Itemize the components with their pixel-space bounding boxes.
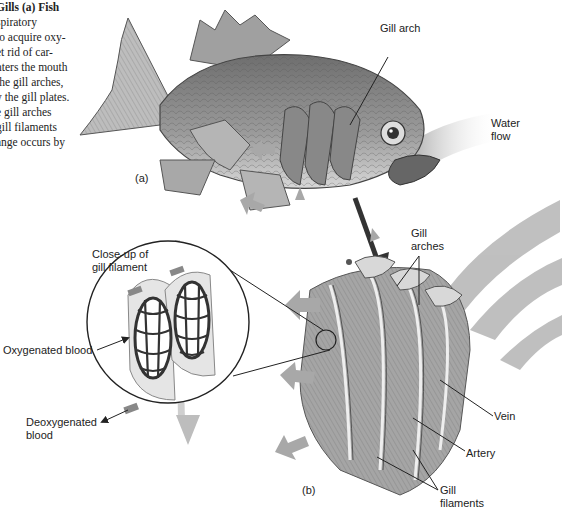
label-gill-arches-line2: arches: [411, 240, 444, 253]
label-deoxygenated-line2: blood: [26, 429, 53, 442]
label-closeup-line2: gill filament: [92, 261, 147, 274]
label-artery: Artery: [466, 447, 495, 460]
label-water-flow-line2: flow: [491, 130, 511, 143]
label-deoxygenated-line1: Deoxygenated: [26, 416, 97, 429]
label-water-flow-line1: Water: [491, 117, 520, 130]
label-panel-a: (a): [135, 172, 148, 185]
fish-illustration: [80, 10, 440, 215]
label-gill-filaments-line1: Gill: [440, 484, 456, 497]
label-closeup-line1: Close-up of: [92, 248, 148, 261]
label-gill-arch: Gill arch: [380, 22, 420, 35]
label-vein: Vein: [494, 410, 515, 423]
gill-arches-illustration: [300, 256, 470, 495]
label-oxygenated-blood: Oxygenated blood: [3, 344, 92, 357]
label-gill-filaments-line2: filaments: [440, 497, 484, 510]
zoom-arrow: [355, 198, 378, 262]
label-panel-b: (b): [302, 484, 315, 497]
label-gill-arches-line1: Gill: [411, 227, 427, 240]
